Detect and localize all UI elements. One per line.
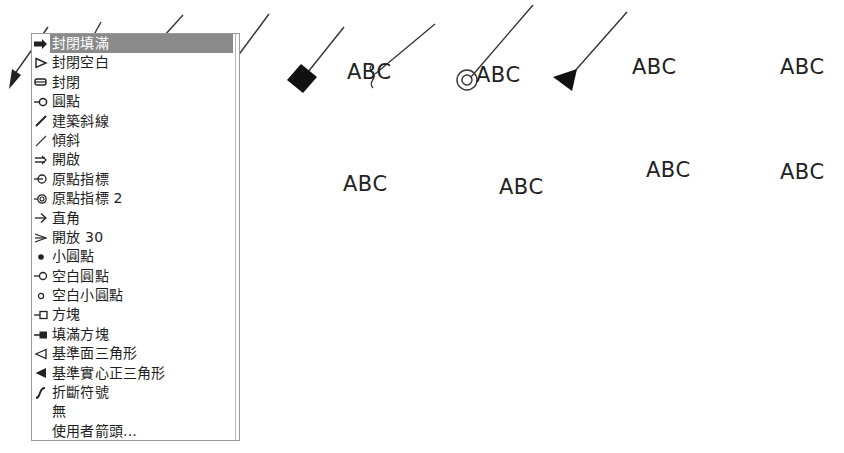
sample-text: ABC	[476, 63, 521, 87]
list-item-filled-closed[interactable]: 封閉填滿	[32, 34, 239, 53]
list-item-label: 基準實心正三角形	[50, 364, 168, 383]
filled-datum-triangle-icon	[32, 364, 50, 383]
list-item-label: 原點指標 2	[50, 189, 125, 208]
list-item-label: 直角	[50, 209, 82, 228]
list-item-label: 方塊	[50, 305, 82, 324]
list-item-label: 空白小圓點	[50, 286, 125, 305]
filled-closed-arrow-icon	[32, 34, 50, 53]
list-item-small-dot[interactable]: 小圓點	[32, 247, 239, 266]
sample-text: ABC	[632, 55, 677, 79]
arrowhead-reference: 封閉填滿 封閉空白 封閉 圓點 建築斜線	[0, 0, 844, 453]
blank-dot-icon	[32, 267, 50, 286]
user-arrow-icon	[32, 422, 50, 441]
list-item-label: 開啟	[50, 150, 82, 169]
list-item-label: 封閉空白	[50, 53, 111, 72]
list-item-label: 圓點	[50, 92, 82, 111]
list-item-dot[interactable]: 圓點	[32, 92, 239, 111]
list-item-open-closed[interactable]: 封閉空白	[32, 53, 239, 72]
filled-datum-triangle-sample	[546, 10, 636, 95]
list-item-label: 原點指標	[50, 170, 111, 189]
integral-icon	[32, 383, 50, 402]
sample-text: ABC	[343, 172, 388, 196]
list-item-label: 空白圓點	[50, 267, 111, 286]
small-blank-dot-icon	[32, 286, 50, 305]
small-dot-icon	[32, 247, 50, 266]
open-arrow-icon	[32, 151, 50, 170]
none-icon	[32, 403, 50, 422]
origin-indicator-2-icon	[32, 189, 50, 208]
list-item-oblique[interactable]: 傾斜	[32, 131, 239, 150]
list-item-right-angle[interactable]: 直角	[32, 209, 239, 228]
origin-indicator-icon	[32, 170, 50, 189]
list-item-datum-triangle[interactable]: 基準面三角形	[32, 344, 239, 363]
list-item-label: 封閉	[50, 73, 82, 92]
list-item-label: 封閉填滿	[50, 34, 233, 53]
oblique-icon	[32, 131, 50, 150]
dot-arrow-icon	[32, 92, 50, 111]
list-item-label: 無	[50, 402, 68, 421]
list-item-open-30[interactable]: 開放 30	[32, 228, 239, 247]
list-item-closed[interactable]: 封閉	[32, 73, 239, 92]
closed-arrow-icon	[32, 73, 50, 92]
sample-text: ABC	[347, 60, 392, 84]
datum-triangle-icon	[32, 344, 50, 363]
list-item-filled-datum-triangle[interactable]: 基準實心正三角形	[32, 364, 239, 383]
sample-text: ABC	[499, 175, 544, 199]
list-item-origin-indicator[interactable]: 原點指標	[32, 170, 239, 189]
box-icon	[32, 306, 50, 325]
open-closed-arrow-icon	[32, 54, 50, 73]
sample-text: ABC	[780, 160, 825, 184]
list-item-label: 傾斜	[50, 131, 82, 150]
list-item-label: 開放 30	[50, 228, 105, 247]
list-item-label: 折斷符號	[50, 383, 111, 402]
list-item-open[interactable]: 開啟	[32, 150, 239, 169]
sample-text: ABC	[646, 158, 691, 182]
open-30-arrow-icon	[32, 228, 50, 247]
list-item-none[interactable]: 無	[32, 402, 239, 421]
list-item-filled-box[interactable]: 填滿方塊	[32, 325, 239, 344]
architectural-tick-icon	[32, 112, 50, 131]
filled-box-icon	[32, 325, 50, 344]
arrowhead-list[interactable]: 封閉填滿 封閉空白 封閉 圓點 建築斜線	[31, 33, 240, 441]
list-item-user-arrow[interactable]: 使用者箭頭...	[32, 422, 239, 441]
list-item-label: 建築斜線	[50, 112, 111, 131]
list-item-label: 填滿方塊	[50, 325, 111, 344]
list-item-box[interactable]: 方塊	[32, 305, 239, 324]
list-item-label: 基準面三角形	[50, 344, 139, 363]
list-item-integral[interactable]: 折斷符號	[32, 383, 239, 402]
list-item-architectural-tick[interactable]: 建築斜線	[32, 112, 239, 131]
right-angle-arrow-icon	[32, 209, 50, 228]
sample-text: ABC	[780, 55, 825, 79]
list-item-small-blank-dot[interactable]: 空白小圓點	[32, 286, 239, 305]
list-item-label: 小圓點	[50, 247, 97, 266]
list-item-blank-dot[interactable]: 空白圓點	[32, 267, 239, 286]
list-item-label: 使用者箭頭...	[50, 422, 139, 441]
list-item-origin-indicator-2[interactable]: 原點指標 2	[32, 189, 239, 208]
